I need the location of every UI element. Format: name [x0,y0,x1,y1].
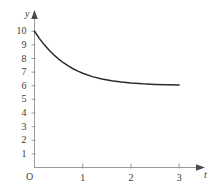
chart-figure: y t O 12345678910 123 [0,0,214,191]
x-tick-label: 3 [172,173,186,183]
y-tick-label: 6 [11,81,27,91]
x-tick-label: 1 [76,173,90,183]
y-tick-label: 8 [11,54,27,64]
y-tick-label: 5 [11,94,27,104]
y-tick-label: 1 [11,149,27,159]
y-axis-arrow-icon [31,10,38,19]
data-series-curve [35,31,180,85]
y-tick-label: 9 [11,40,27,50]
chart-plot-area [0,0,214,191]
origin-label: O [26,172,33,182]
y-tick-label: 4 [11,108,27,118]
y-tick-label: 7 [11,67,27,77]
x-tick-label: 2 [124,173,138,183]
y-axis-label: y [25,9,29,19]
y-tick-label: 3 [11,122,27,132]
y-tick-label: 2 [11,135,27,145]
x-axis-label: t [204,170,207,180]
y-tick-label: 10 [11,26,27,36]
